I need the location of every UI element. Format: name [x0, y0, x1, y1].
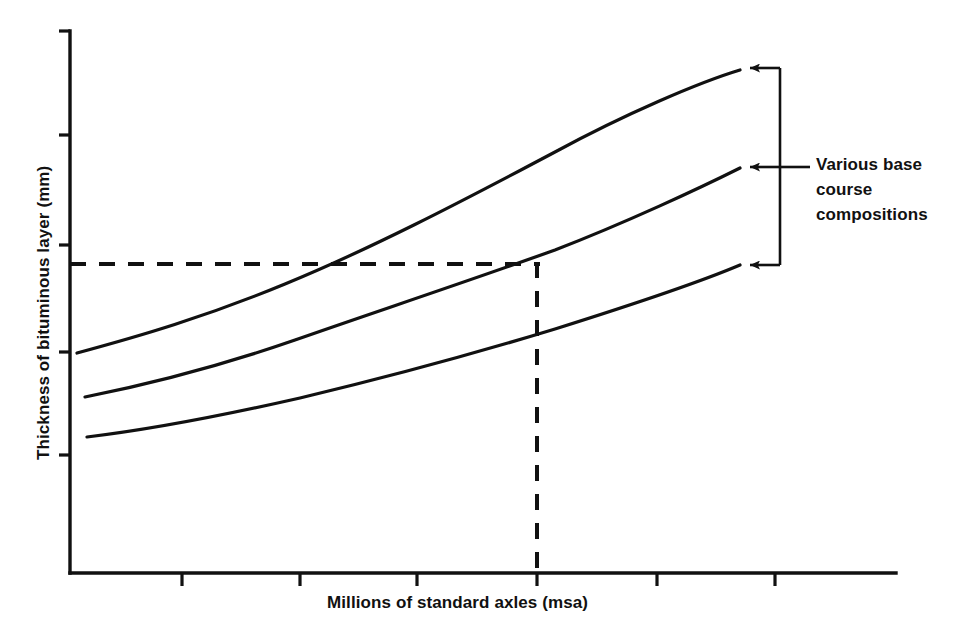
x-axis-ticks: [182, 573, 775, 586]
annotation-line-1: Various base: [816, 155, 922, 175]
x-axis-title: Millions of standard axles (msa): [327, 593, 588, 613]
figure-root: Thickness of bituminous layer (mm) Milli…: [0, 0, 962, 634]
annotation-line-2: course: [816, 180, 872, 200]
annotation-line-3: compositions: [816, 205, 928, 225]
data-series-group: [77, 70, 740, 437]
axis-lines: [70, 31, 896, 573]
curve-upper-base-course: [77, 70, 740, 353]
curve-lower-base-course: [87, 265, 740, 437]
callout-bracket-group: [750, 68, 810, 265]
y-axis-title: Thickness of bituminous layer (mm): [34, 166, 54, 460]
chart-canvas: [0, 0, 962, 634]
construction-lines: [70, 262, 540, 573]
curve-middle-base-course: [85, 168, 740, 397]
